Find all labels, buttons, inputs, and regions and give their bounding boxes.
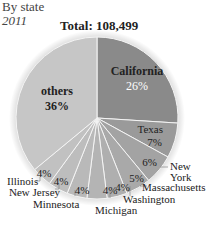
label-minnesota: Minnesota	[33, 198, 80, 210]
pie-chart: California 26% Texas 7% 6% New York 5% M…	[0, 0, 208, 229]
pct-illinois: 4%	[37, 167, 52, 179]
pct-minnesota: 4%	[75, 184, 90, 196]
pct-newyork: 6%	[142, 156, 157, 168]
label-california: California	[111, 64, 164, 78]
pct-texas: 7%	[147, 136, 162, 148]
label-texas: Texas	[138, 123, 164, 135]
label-michigan: Michigan	[95, 204, 138, 216]
label-illinois: Illinois	[7, 175, 38, 187]
label-massachusetts: Massachusetts	[142, 181, 206, 193]
label-others: others	[41, 84, 73, 98]
pct-michigan: 4%	[103, 184, 118, 196]
label-newjersey: New Jersey	[9, 186, 61, 198]
pct-others: 36%	[45, 99, 69, 113]
pct-california: 26%	[126, 79, 148, 93]
pct-washington: 4%	[115, 181, 130, 193]
